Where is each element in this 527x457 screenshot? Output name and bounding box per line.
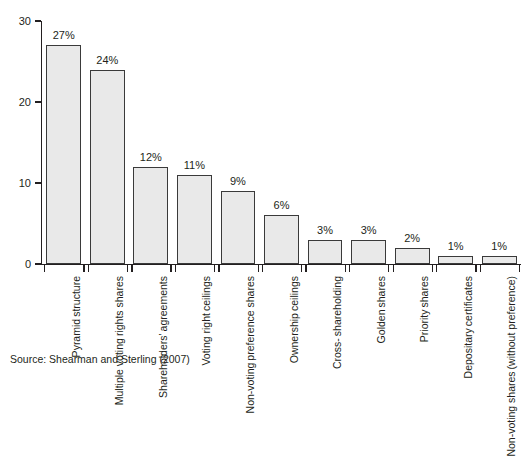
bar[interactable] [308,240,343,264]
x-axis-category-label-line: ceilings [201,276,213,311]
x-axis-category-label-line: (without preference) [506,276,518,369]
x-axis-category-label-line: Multiple voting [114,338,126,405]
x-axis-tick [393,265,394,272]
x-axis-tick [432,265,433,272]
x-axis-category-label: Non-voting shares(without preference) [506,274,527,457]
bar-value-label: 9% [230,176,246,187]
x-axis-category-label-line: Golden [376,310,388,344]
x-axis-tick [388,265,389,272]
x-axis-category-label: Shareholders'agreements [158,274,180,398]
bar-value-label: 3% [361,225,377,236]
x-axis-tick [170,265,171,272]
bar-slot: 1% [482,21,517,264]
x-axis-category-label: Voting rightceilings [201,274,223,366]
y-axis-tick-label: 10 [5,178,31,189]
bar-slot: 11% [177,21,212,264]
bar-slot: 1% [438,21,473,264]
y-axis-tick-label: 20 [5,97,31,108]
bar-slot: 3% [351,21,386,264]
bar[interactable] [438,256,473,264]
x-axis-category-label-line: Non-voting shares [506,371,518,456]
bar-value-label: 3% [317,225,333,236]
x-axis-category-label-line: rights shares [114,276,126,336]
bar-value-label: 2% [404,233,420,244]
x-axis-category-label-line: Voting right [201,313,213,366]
x-axis-category-label-line: Cross- [332,338,344,369]
x-axis-tick [131,265,132,272]
x-axis-category-label-line: Non-voting [245,363,257,414]
x-axis-tick [262,265,263,272]
x-axis-tick [175,265,176,272]
x-axis-category-label-line: Shareholders' [158,333,170,397]
bar-value-label: 27% [53,30,75,41]
x-axis-tick [127,265,128,272]
bar[interactable] [46,45,81,264]
bar[interactable] [90,70,125,264]
x-axis-category-label-line: shareholding [332,276,344,336]
bar-value-label: 1% [491,241,507,252]
x-axis-tick [301,265,302,272]
bar[interactable] [482,256,517,264]
x-axis-tick [214,265,215,272]
x-axis-tick [305,265,306,272]
x-axis-tick [88,265,89,272]
x-axis-category-label-line: Ownership [289,313,301,363]
x-axis-category-label: Ownershipceilings [289,274,311,363]
x-axis-category-label: Depositarycertificates [463,274,485,378]
bar-slot: 2% [395,21,430,264]
x-axis-category-label-line: Depositary [463,328,475,378]
x-axis-tick [258,265,259,272]
bar-slot: 27% [46,21,81,264]
x-axis-category-label-line: preference shares [245,276,257,361]
x-axis-tick [349,265,350,272]
x-axis-baseline [41,264,521,265]
x-axis-tick [218,265,219,272]
bar-slot: 24% [90,21,125,264]
x-axis-category-label: Pyramidstructure [71,274,93,357]
x-axis-category-label: Non-votingpreference shares [245,274,267,413]
x-axis-category-label-line: agreements [158,276,170,331]
x-axis-tick [44,265,45,272]
bar-slot: 6% [264,21,299,264]
bar[interactable] [177,175,212,264]
bar[interactable] [264,215,299,264]
bar-value-label: 12% [140,152,162,163]
bar[interactable] [221,191,256,264]
x-axis-tick [519,265,520,272]
y-axis-tick-label: 30 [5,16,31,27]
bar-slot: 3% [308,21,343,264]
plot-area: 27%24%12%11%9%6%3%3%2%1%1% [42,21,521,264]
x-axis-tick [345,265,346,272]
x-axis-category-label-line: shares [376,276,388,308]
bar-value-label: 24% [96,55,118,66]
bar-value-label: 6% [274,200,290,211]
bar[interactable] [133,167,168,264]
y-axis-tick [35,263,41,264]
x-axis-tick [475,265,476,272]
x-axis-tick [83,265,84,272]
bar-slot: 12% [133,21,168,264]
y-axis-tick [35,101,41,102]
bar[interactable] [395,248,430,264]
bar-value-label: 1% [448,241,464,252]
bar[interactable] [351,240,386,264]
x-axis-tick [480,265,481,272]
x-axis-category-label-line: ceilings [289,276,301,311]
y-axis-tick [35,182,41,183]
x-axis-category-label: Goldenshares [376,274,398,343]
y-axis-tick-label: 0 [5,259,31,270]
bar-value-label: 11% [184,160,205,171]
x-axis-category-label-line: shares [419,276,431,308]
x-axis-category-label: Priorityshares [419,274,441,342]
x-axis-category-label-line: certificates [463,276,475,326]
y-axis-tick [35,20,41,21]
source-note: Source: Shearman and Sterling (2007) [10,353,190,365]
x-axis-category-label-line: Pyramid [71,319,83,358]
x-axis-category-label-line: structure [71,276,83,317]
bar-slot: 9% [221,21,256,264]
x-axis-category-label-line: Priority [419,310,431,343]
x-axis-category-label: Cross-shareholding [332,274,354,369]
x-axis-tick [436,265,437,272]
x-axis-category-label: Multiple votingrights shares [114,274,136,405]
